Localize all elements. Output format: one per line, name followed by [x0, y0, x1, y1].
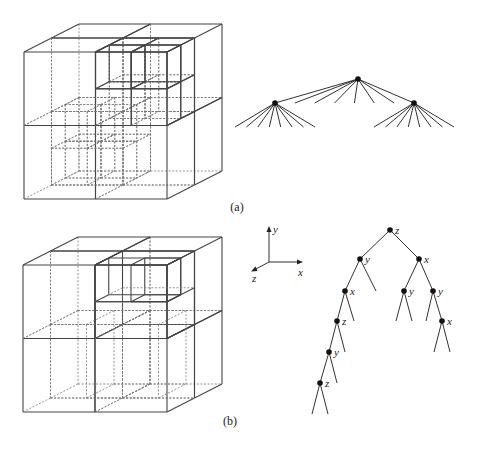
y-axis-label: y	[272, 223, 278, 235]
y-axis-arrowhead-icon	[267, 226, 272, 232]
tree-node	[401, 288, 407, 294]
sub-octant-edge	[145, 112, 159, 119]
sub-octant-edge	[137, 171, 151, 178]
z-axis-label: z	[251, 272, 257, 284]
octant-edge	[167, 185, 195, 199]
sub-octant-edge	[109, 38, 123, 45]
tree-edge-leaf	[426, 291, 433, 321]
cell-edge	[87, 311, 115, 325]
sub-octant-edge	[52, 141, 66, 148]
octant-edge	[123, 24, 151, 38]
sub-octant-edge	[167, 45, 181, 52]
tree-edge-leaf	[358, 79, 394, 103]
cell-edge	[51, 237, 79, 251]
tree-node	[416, 256, 422, 262]
sub-octant-edge	[65, 171, 79, 178]
sub-octant-edge	[101, 98, 115, 105]
node-split-label: y	[364, 253, 370, 265]
cell-edge	[123, 237, 151, 251]
node-split-label: x	[446, 315, 452, 327]
x-axis-arrowhead-icon	[297, 260, 303, 265]
tree-edge-leaf	[235, 103, 275, 127]
sub-octant-edge	[131, 82, 145, 89]
sub-octant-edge	[52, 105, 66, 112]
tree-node	[357, 256, 363, 262]
sub-octant-edge	[137, 134, 151, 141]
sub-octant-edge	[101, 134, 115, 141]
node-split-label: y	[437, 285, 443, 297]
tree-root-node	[387, 227, 393, 233]
octree-diagram	[235, 76, 454, 127]
octree-cube-drawing	[24, 24, 222, 199]
octant-edge	[195, 24, 223, 38]
tree-edge	[275, 79, 358, 103]
cell-edge	[131, 258, 145, 265]
sub-octant-edge	[65, 98, 79, 105]
sub-octant-edge	[131, 45, 145, 52]
cell-edge	[195, 311, 223, 325]
octant-edge	[195, 98, 223, 112]
sub-octant-edge	[123, 178, 137, 185]
tree-edge-leaf	[315, 79, 358, 103]
cell-edge	[167, 398, 195, 412]
tree-node	[430, 288, 436, 294]
node-split-label: z	[394, 224, 400, 236]
sub-octant-edge	[123, 105, 137, 112]
cell-edge	[23, 325, 51, 339]
sub-octant-edge	[101, 171, 115, 178]
node-split-label: y	[408, 285, 414, 297]
sub-octant-edge	[145, 38, 159, 45]
sub-octant-edge	[123, 141, 137, 148]
sub-octant-edge	[96, 45, 110, 52]
tree-node	[334, 318, 340, 324]
tree-node	[342, 288, 348, 294]
cell-edge	[131, 295, 145, 302]
node-split-label: z	[341, 315, 347, 327]
cell-edge	[51, 311, 79, 325]
cell-edge	[51, 384, 79, 398]
tree-edge-leaf	[374, 103, 414, 127]
tree-edge-leaf	[275, 103, 315, 127]
kd-tree-cube-drawing	[23, 237, 222, 412]
cell-edge	[23, 251, 51, 265]
sub-octant-edge	[87, 178, 101, 185]
sub-octant-edge	[137, 98, 151, 105]
sub-octant-edge	[87, 105, 101, 112]
figure-canvas: (a) y x z zyxxyyzxyz (b)	[0, 0, 480, 450]
sub-octant-edge	[167, 119, 181, 126]
sub-octant-edge	[96, 82, 110, 89]
octant-edge	[24, 38, 52, 52]
octant-edge	[195, 171, 223, 185]
cell-edge	[87, 384, 115, 398]
sub-octant-edge	[109, 75, 123, 82]
node-split-label: x	[349, 285, 355, 297]
tree-edge-leaf	[414, 103, 454, 127]
cell-edge	[123, 311, 151, 325]
octant-edge	[96, 185, 124, 199]
caption-a: (a)	[230, 200, 243, 214]
sub-octant-edge	[181, 38, 195, 45]
z-axis	[255, 262, 269, 270]
cell-edge	[95, 325, 123, 339]
z-axis-arrowhead-icon	[251, 267, 258, 272]
octant-edge	[52, 24, 80, 38]
cell-edge	[167, 325, 195, 339]
sub-octant-edge	[96, 119, 110, 126]
coordinate-axes: y x z	[251, 223, 303, 284]
tree-edge-leaf	[295, 79, 358, 103]
cell-edge	[195, 384, 223, 398]
cell-edge	[123, 384, 151, 398]
node-split-label: x	[423, 253, 429, 265]
cell-edge	[23, 398, 51, 412]
cell-edge	[195, 237, 223, 251]
sub-octant-edge	[52, 178, 66, 185]
sub-octant-edge	[167, 82, 181, 89]
sub-octant-edge	[87, 141, 101, 148]
sub-octant-edge	[65, 134, 79, 141]
node-split-label: y	[333, 346, 339, 358]
tree-root-node	[355, 76, 361, 82]
x-axis-label: x	[297, 266, 303, 278]
tree-node	[326, 349, 332, 355]
caption-b: (b)	[223, 414, 237, 428]
cell-edge	[159, 311, 187, 325]
